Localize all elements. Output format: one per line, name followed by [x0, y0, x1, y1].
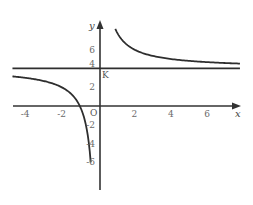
x-tick-label: 2: [132, 109, 138, 119]
point-k-label: K: [102, 70, 109, 80]
curves: [12, 29, 240, 163]
y-tick-label: 2: [89, 82, 95, 92]
x-tick-label: 4: [168, 109, 174, 119]
labels: x y O K -4-2246 642-2-4-6: [21, 20, 241, 167]
y-tick-label: -6: [86, 157, 95, 167]
y-axis-label: y: [88, 20, 95, 31]
x-tick-label: 6: [204, 109, 210, 119]
right-branch: [115, 29, 240, 64]
y-tick-label: 6: [89, 45, 95, 55]
origin-label: O: [90, 108, 97, 118]
function-graph: x y O K -4-2246 642-2-4-6: [0, 0, 253, 205]
y-tick-label: 4: [89, 59, 95, 69]
x-axis-label: x: [235, 108, 241, 119]
x-tick-label: -2: [57, 109, 66, 119]
x-tick-labels: -4-2246: [21, 109, 211, 119]
y-tick-label: -2: [86, 120, 95, 130]
left-branch: [12, 76, 90, 162]
y-tick-label: -4: [86, 139, 95, 149]
y-axis-arrow-icon: [97, 20, 104, 29]
x-tick-label: -4: [21, 109, 30, 119]
